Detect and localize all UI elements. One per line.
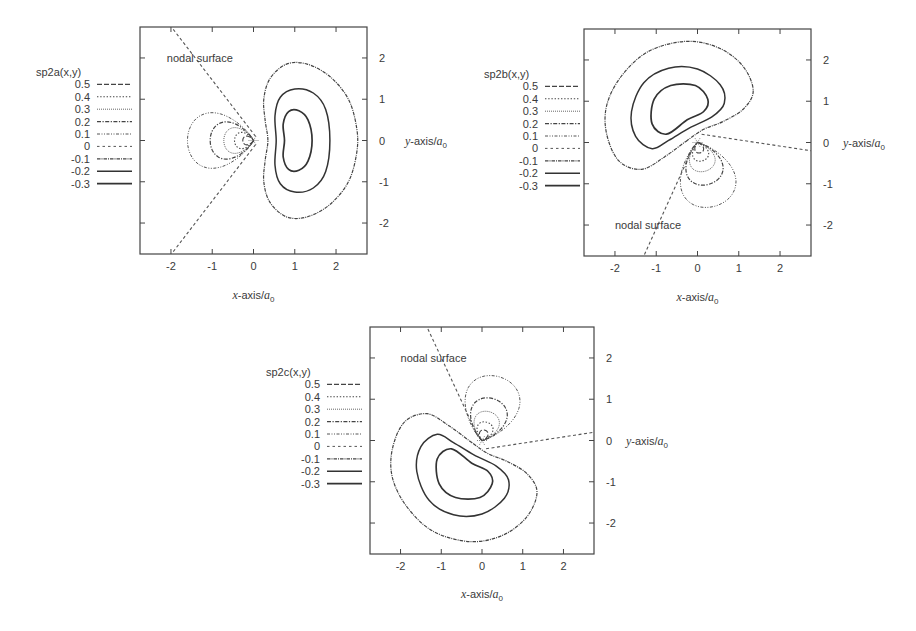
- x-axis-title: x-axis/a0: [231, 288, 275, 304]
- x-tick-label: 2: [777, 262, 783, 274]
- legend-label: -0.1: [519, 155, 538, 167]
- legend: sp2c(x,y)0.50.40.30.20.10-0.1-0.2-0.3: [266, 366, 362, 490]
- origin-detail: [254, 136, 257, 140]
- contour-level--0.2: [416, 434, 509, 516]
- nodal-line: [427, 327, 478, 436]
- legend-label: -0.2: [301, 465, 320, 477]
- contour-plot-sp2a: -2-1012-2-1012nodal surfacex-axis/a0y-ax…: [36, 27, 448, 304]
- legend-label: -0.3: [519, 180, 538, 192]
- x-tick-label: -1: [436, 560, 446, 572]
- contour-level-0.2: [686, 142, 723, 185]
- y-tick-label: 1: [379, 93, 385, 105]
- legend-label: 0.3: [75, 103, 90, 115]
- contour-level--0.2: [631, 67, 725, 149]
- origin-detail: [251, 136, 254, 140]
- legend-label: -0.2: [519, 167, 538, 179]
- legend-label: -0.1: [301, 453, 320, 465]
- y-axis-title: y-axis/a0: [404, 134, 448, 150]
- origin-detail: [482, 441, 485, 445]
- contour-level--0.1: [391, 414, 537, 542]
- y-tick-label: 1: [823, 95, 829, 107]
- legend: sp2b(x,y)0.50.40.30.20.10-0.1-0.2-0.3: [484, 68, 580, 192]
- legend-label: 0.3: [305, 403, 320, 415]
- x-tick-label: -2: [610, 262, 620, 274]
- legend: sp2a(x,y)0.50.40.30.20.10-0.1-0.2-0.3: [36, 66, 132, 190]
- y-tick-label: 2: [379, 52, 385, 64]
- legend-label: 0.4: [305, 391, 320, 403]
- y-tick-label: -1: [379, 176, 389, 188]
- x-tick-label: 0: [250, 260, 256, 272]
- x-tick-label: 1: [520, 560, 526, 572]
- contour-level--0.3: [283, 110, 312, 171]
- x-tick-label: 2: [333, 260, 339, 272]
- contour-level--0.1: [605, 41, 753, 169]
- y-tick-label: -1: [823, 178, 833, 190]
- legend-title: sp2b(x,y): [484, 68, 529, 80]
- nodal-line: [486, 432, 594, 449]
- origin-detail: [480, 441, 483, 445]
- legend-label: 0.5: [75, 78, 90, 90]
- legend-label: -0.2: [71, 165, 90, 177]
- y-tick-label: 0: [379, 135, 385, 147]
- legend-label: 0.2: [523, 118, 538, 130]
- nodal-line: [644, 147, 694, 256]
- contour-plot-sp2b: -2-1012-2-1012nodal surfacex-axis/a0y-ax…: [484, 29, 886, 306]
- legend-label: 0.4: [75, 91, 90, 103]
- legend-label: 0: [314, 440, 320, 452]
- origin-detail: [695, 138, 698, 142]
- legend-title: sp2c(x,y): [266, 366, 311, 378]
- x-tick-label: -2: [396, 560, 406, 572]
- x-tick-label: 1: [292, 260, 298, 272]
- y-axis-title: y-axis/a0: [625, 434, 669, 450]
- contour-plot-sp2c: -2-1012-2-1012nodal surfacex-axis/a0y-ax…: [266, 327, 669, 603]
- x-tick-label: -1: [207, 260, 217, 272]
- legend-label: -0.3: [71, 178, 90, 190]
- contour-level--0.3: [651, 84, 708, 134]
- legend-label: 0.4: [523, 93, 538, 105]
- legend-label: 0.5: [305, 378, 320, 390]
- nodal-line: [173, 145, 256, 252]
- legend-label: 0.1: [305, 428, 320, 440]
- nodal-surface-label: nodal surface: [615, 219, 681, 231]
- legend-title: sp2a(x,y): [36, 66, 81, 78]
- legend-label: 0: [84, 140, 90, 152]
- nodal-line: [702, 134, 811, 151]
- contour-level--0.1: [264, 62, 358, 218]
- contour-level--0.3: [436, 449, 492, 499]
- x-tick-label: 2: [560, 560, 566, 572]
- x-axis-title: x-axis/a0: [460, 587, 504, 603]
- y-tick-label: 2: [606, 352, 612, 364]
- legend-label: -0.3: [301, 478, 320, 490]
- x-tick-label: 0: [479, 560, 485, 572]
- nodal-surface-label: nodal surface: [167, 52, 233, 64]
- legend-label: 0.2: [75, 116, 90, 128]
- legend-label: 0.1: [75, 128, 90, 140]
- contour-level-0.1: [680, 142, 736, 207]
- x-tick-label: 0: [694, 262, 700, 274]
- y-tick-label: -1: [606, 476, 616, 488]
- y-tick-label: 2: [823, 54, 829, 66]
- legend-label: 0.3: [523, 105, 538, 117]
- legend-label: 0.2: [305, 416, 320, 428]
- origin-detail: [698, 138, 701, 142]
- y-tick-label: -2: [379, 217, 389, 229]
- y-axis-title: y-axis/a0: [842, 136, 886, 152]
- legend-label: 0.1: [523, 130, 538, 142]
- contour-level-0.2: [471, 398, 508, 441]
- x-axis-title: x-axis/a0: [675, 290, 719, 306]
- legend-label: 0: [532, 142, 538, 154]
- y-tick-label: 0: [606, 435, 612, 447]
- y-tick-label: -2: [606, 517, 616, 529]
- y-tick-label: 0: [823, 137, 829, 149]
- nodal-line: [173, 29, 256, 136]
- nodal-surface-label: nodal surface: [401, 352, 467, 364]
- contour-level--0.2: [275, 89, 330, 193]
- x-tick-label: -2: [166, 260, 176, 272]
- legend-label: 0.5: [523, 80, 538, 92]
- x-tick-label: -1: [651, 262, 661, 274]
- figure-canvas: -2-1012-2-1012nodal surfacex-axis/a0y-ax…: [0, 0, 916, 631]
- x-tick-label: 1: [736, 262, 742, 274]
- y-tick-label: -2: [823, 219, 833, 231]
- origin-detail: [254, 141, 257, 145]
- y-tick-label: 1: [606, 393, 612, 405]
